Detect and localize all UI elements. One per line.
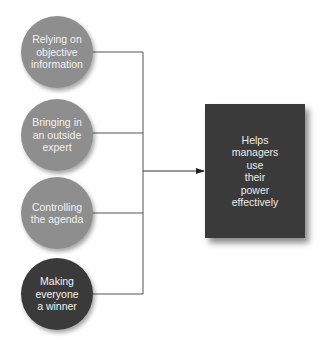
node-controlling-agenda: Controlling the agenda (21, 177, 93, 249)
node-everyone-winner: Making everyone a winner (21, 258, 93, 330)
node-label: Helps managers use their power effective… (232, 134, 279, 209)
node-label: Bringing in an outside expert (26, 116, 88, 154)
node-label: Making everyone a winner (26, 275, 88, 313)
node-outside-expert: Bringing in an outside expert (21, 99, 93, 171)
node-effective-power: Helps managers use their power effective… (205, 104, 305, 238)
node-label: Controlling the agenda (26, 201, 88, 226)
node-objective-info: Relying on objective information (21, 16, 93, 88)
node-label: Relying on objective information (26, 33, 88, 71)
